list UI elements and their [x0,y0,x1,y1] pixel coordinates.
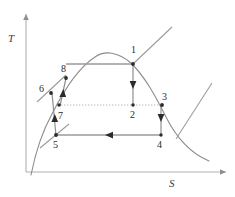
diagram-canvas [0,0,235,197]
state-point-marker-8[interactable] [64,76,68,80]
isobar-upper-right-line [133,27,172,64]
arrow-4-to-5 [105,132,113,139]
state-point-marker-5[interactable] [54,133,58,137]
state-point-marker-3[interactable] [160,103,164,107]
state-point-label-7: 7 [58,111,63,121]
isobar-lower-right-line [176,83,212,139]
isobar-lines [37,27,212,148]
state-point-marker-1[interactable] [131,62,135,66]
x-axis-label: S [169,178,175,189]
process-paths [51,64,164,138]
arrow-3-to-4 [158,114,165,122]
state-point-label-5: 5 [53,140,58,150]
state-point-label-2: 2 [130,110,135,120]
state-point-marker-7[interactable] [57,103,60,106]
state-point-marker-6[interactable] [49,91,53,95]
state-point-label-1: 1 [131,45,136,55]
process-line-5-6 [52,93,56,136]
state-point-label-6: 6 [39,84,44,94]
y-axis-label: T [8,33,14,44]
state-point-marker-4[interactable] [159,133,162,136]
state-point-label-4: 4 [157,140,162,150]
arrow-1-to-2 [130,81,137,89]
state-point-marker-2[interactable] [131,103,134,106]
ts-diagram-figure: T S 1 2 3 4 5 6 7 8 [0,0,235,197]
state-point-label-3: 3 [162,92,167,102]
state-point-label-8: 8 [61,64,66,74]
